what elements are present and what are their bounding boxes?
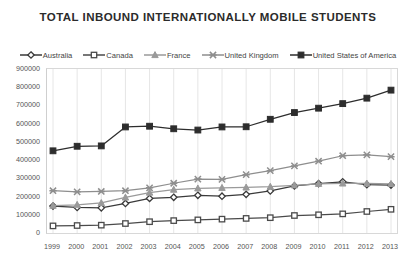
line-chart-svg — [47, 69, 397, 233]
data-point-marker — [171, 126, 177, 132]
data-point-marker — [50, 148, 56, 154]
data-point-marker — [92, 52, 97, 57]
diamond-marker-icon — [20, 50, 42, 60]
data-point-marker — [268, 215, 273, 220]
y-axis-tick-label: 600000 — [16, 118, 40, 127]
x-axis-tick-label: 2013 — [382, 242, 398, 251]
x-axis-tick-label: 2004 — [165, 242, 181, 251]
y-axis-tick-label: 0 — [36, 228, 40, 237]
x-axis-tick-label: 2008 — [261, 242, 277, 251]
data-point-marker — [219, 216, 224, 221]
data-point-marker — [292, 110, 298, 116]
chart-legend: AustraliaCanadaFranceUnited KingdomUnite… — [0, 50, 416, 60]
data-point-marker — [219, 124, 225, 130]
data-point-marker — [219, 193, 225, 199]
data-point-marker — [74, 223, 79, 228]
data-point-marker — [298, 52, 304, 58]
plot-wrapper: 0100000200000300000400000500000600000700… — [0, 66, 416, 252]
data-point-marker — [243, 124, 249, 130]
data-point-marker — [316, 212, 321, 217]
data-point-marker — [209, 52, 216, 58]
y-axis-tick-label: 300000 — [16, 173, 40, 182]
y-axis-tick-label: 800000 — [16, 82, 40, 91]
legend-item-australia[interactable]: Australia — [20, 50, 73, 60]
data-point-marker — [99, 222, 104, 227]
y-axis-tick-label: 700000 — [16, 100, 40, 109]
y-axis-tick-label: 100000 — [16, 209, 40, 218]
data-point-marker — [340, 101, 346, 107]
data-point-marker — [147, 123, 153, 129]
y-axis-tick-label: 500000 — [16, 136, 40, 145]
x-axis-tick-label: 2007 — [237, 242, 253, 251]
data-point-marker — [364, 209, 369, 214]
data-point-marker — [123, 124, 129, 130]
y-axis-tick-label: 400000 — [16, 155, 40, 164]
legend-item-label: United Kingdom — [225, 51, 279, 60]
data-point-marker — [195, 217, 200, 222]
data-point-marker — [364, 95, 370, 101]
square-filled-marker-icon — [290, 50, 312, 60]
square-marker-icon — [83, 50, 105, 60]
legend-item-france[interactable]: France — [144, 50, 191, 60]
data-point-marker — [267, 116, 273, 122]
x-axis-tick-label: 2001 — [92, 242, 108, 251]
x-axis-tick-label: 2002 — [116, 242, 132, 251]
x-marker-icon — [202, 50, 224, 60]
data-point-marker — [171, 218, 176, 223]
x-axis-tick-label: 2006 — [213, 242, 229, 251]
data-point-marker — [98, 143, 104, 149]
legend-item-united-kingdom[interactable]: United Kingdom — [202, 50, 279, 60]
legend-item-label: Australia — [43, 51, 73, 60]
data-point-marker — [146, 195, 152, 201]
x-axis-tick-label: 2000 — [68, 242, 84, 251]
legend-item-label: United States of America — [313, 51, 397, 60]
data-point-marker — [340, 211, 345, 216]
y-axis-tick-label: 200000 — [16, 191, 40, 200]
chart-title: TOTAL INBOUND INTERNATIONALLY MOBILE STU… — [28, 10, 388, 24]
data-point-marker — [123, 221, 128, 226]
x-axis-tick-label: 2010 — [310, 242, 326, 251]
x-axis-tick-label: 2005 — [189, 242, 205, 251]
data-point-marker — [28, 52, 34, 58]
data-point-marker — [388, 87, 394, 93]
legend-item-united-states-of-america[interactable]: United States of America — [290, 50, 397, 60]
chart-card: TOTAL INBOUND INTERNATIONALLY MOBILE STU… — [0, 0, 416, 276]
legend-item-label: Canada — [106, 51, 133, 60]
data-point-marker — [292, 213, 297, 218]
data-point-marker — [171, 194, 177, 200]
legend-item-label: France — [167, 51, 191, 60]
data-point-marker — [388, 207, 393, 212]
data-point-marker — [195, 192, 201, 198]
x-axis-tick-label: 2009 — [285, 242, 301, 251]
x-axis-tick-label: 1999 — [44, 242, 60, 251]
data-point-marker — [50, 223, 55, 228]
y-axis: 0100000200000300000400000500000600000700… — [0, 66, 44, 236]
triangle-marker-icon — [144, 50, 166, 60]
plot-area — [46, 68, 398, 234]
legend-item-canada[interactable]: Canada — [83, 50, 133, 60]
x-axis-tick-label: 2012 — [358, 242, 374, 251]
data-point-marker — [147, 219, 152, 224]
x-axis-tick-label: 2003 — [141, 242, 157, 251]
data-point-marker — [195, 127, 201, 133]
y-axis-tick-label: 900000 — [16, 64, 40, 73]
x-axis-tick-label: 2011 — [334, 242, 349, 251]
x-axis: 1999200020012002200320042005200620072008… — [46, 242, 398, 256]
data-point-marker — [243, 191, 249, 197]
data-point-marker — [122, 200, 128, 206]
data-point-marker — [316, 105, 322, 111]
data-point-marker — [243, 216, 248, 221]
data-point-marker — [74, 143, 80, 149]
